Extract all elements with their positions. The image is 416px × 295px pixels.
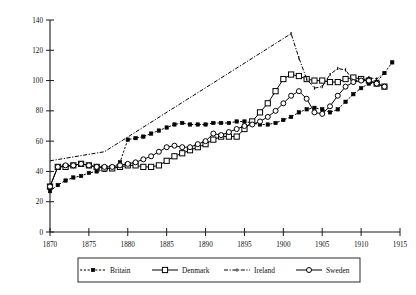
data-point-marker — [212, 121, 215, 124]
data-point-marker — [281, 101, 286, 106]
data-point-marker — [281, 76, 286, 81]
data-point-marker — [165, 126, 168, 129]
y-tick-label: 20 — [36, 198, 44, 206]
data-point-marker — [335, 79, 340, 84]
data-point-marker — [79, 161, 84, 166]
data-point-marker — [289, 115, 292, 118]
series-line — [50, 34, 384, 161]
data-point-marker — [312, 110, 317, 115]
line-chart: 020406080100120140 187018751880188518901… — [0, 0, 416, 295]
data-point-marker — [265, 101, 270, 106]
data-point-marker — [235, 120, 238, 123]
data-point-marker — [211, 131, 216, 136]
x-tick-label: 1885 — [159, 241, 174, 249]
data-point-marker — [126, 138, 129, 141]
data-point-marker — [257, 110, 262, 115]
series-line — [50, 62, 392, 191]
data-point-marker — [118, 163, 123, 168]
data-point-marker — [344, 100, 347, 103]
data-point-marker — [304, 96, 309, 101]
data-point-marker — [133, 160, 138, 165]
data-point-marker — [227, 121, 230, 124]
data-point-marker — [234, 134, 239, 139]
data-point-marker — [234, 127, 239, 132]
data-point-marker — [48, 184, 53, 189]
data-point-marker — [312, 78, 317, 83]
data-point-marker — [359, 86, 362, 89]
x-tick-label: 1870 — [43, 241, 58, 249]
data-point-marker — [250, 122, 255, 127]
data-point-marker — [195, 142, 200, 147]
y-tick-label: 140 — [32, 17, 43, 25]
data-point-marker — [110, 164, 115, 169]
x-tick-label: 1880 — [121, 241, 136, 249]
data-point-marker — [48, 189, 51, 192]
data-point-marker — [273, 108, 278, 113]
data-point-marker — [296, 73, 301, 78]
data-point-marker — [328, 111, 331, 114]
data-point-marker — [79, 174, 82, 177]
data-point-marker — [313, 106, 316, 109]
data-point-marker — [162, 267, 167, 272]
data-point-marker — [86, 163, 91, 168]
data-point-marker — [289, 72, 294, 77]
legend-label-ireland[interactable]: Ireland — [254, 266, 275, 275]
data-point-marker — [156, 149, 161, 154]
y-tick-label: 120 — [32, 47, 43, 55]
data-point-marker — [157, 129, 160, 132]
data-point-marker — [149, 132, 152, 135]
series-line — [50, 75, 384, 187]
data-point-marker — [156, 163, 161, 168]
data-point-marker — [258, 119, 263, 124]
data-point-marker — [125, 161, 130, 166]
data-point-marker — [141, 157, 146, 162]
data-point-marker — [343, 84, 348, 89]
data-point-marker — [94, 164, 99, 169]
data-point-marker — [180, 145, 185, 150]
data-point-marker — [328, 104, 333, 109]
data-point-marker — [266, 123, 269, 126]
data-point-marker — [297, 111, 300, 114]
data-point-marker — [64, 179, 67, 182]
data-point-marker — [327, 79, 332, 84]
data-point-marker — [63, 163, 68, 168]
data-point-marker — [203, 139, 208, 144]
x-tick-label: 1895 — [237, 241, 252, 249]
x-tick-label: 1875 — [82, 241, 97, 249]
data-point-marker — [352, 93, 355, 96]
data-point-marker — [321, 108, 324, 111]
data-point-marker — [265, 114, 270, 119]
data-point-marker — [374, 81, 379, 86]
x-tick-label: 1915 — [393, 241, 408, 249]
legend-label-britain[interactable]: Britain — [110, 266, 131, 275]
y-tick-label: 80 — [36, 107, 44, 115]
series-layer — [47, 32, 394, 193]
data-point-marker — [305, 108, 308, 111]
legend-label-sweden[interactable]: Sweden — [326, 266, 350, 275]
data-point-marker — [343, 76, 348, 81]
data-point-marker — [242, 124, 247, 129]
legend-label-denmark[interactable]: Denmark — [182, 266, 210, 275]
x-tick-label: 1900 — [276, 241, 291, 249]
data-point-marker — [307, 268, 312, 273]
data-point-marker — [391, 61, 394, 64]
data-point-marker — [273, 89, 278, 94]
data-point-marker — [142, 135, 145, 138]
data-point-marker — [335, 93, 340, 98]
data-point-marker — [91, 268, 94, 271]
chart-canvas: 020406080100120140 187018751880188518901… — [0, 0, 416, 295]
data-point-marker — [336, 108, 339, 111]
x-tick-label: 1905 — [315, 241, 330, 249]
data-point-marker — [274, 121, 277, 124]
data-point-marker — [296, 89, 301, 94]
data-point-marker — [181, 121, 184, 124]
data-point-marker — [141, 164, 146, 169]
data-point-marker — [173, 123, 176, 126]
data-point-marker — [188, 145, 193, 150]
series-ireland — [50, 32, 384, 161]
data-point-marker — [366, 78, 371, 83]
data-point-marker — [204, 123, 207, 126]
data-point-marker — [211, 137, 216, 142]
data-point-marker — [351, 80, 356, 85]
data-point-marker — [320, 111, 325, 116]
